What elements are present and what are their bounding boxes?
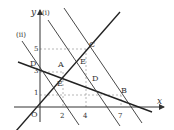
x-tick-4: 4: [83, 112, 88, 120]
point-d-right: D: [92, 74, 98, 83]
y-tick-5: 5: [34, 45, 38, 53]
line-ii-label: (ii): [16, 31, 26, 39]
point-c: C: [89, 40, 95, 49]
y-tick-1: 1: [34, 89, 38, 97]
line-i-label: (i): [42, 9, 50, 17]
point-d-left: D: [30, 59, 36, 68]
y-tick-3: 3: [34, 67, 38, 75]
point-b: B: [121, 86, 127, 95]
point-a: A: [57, 60, 64, 69]
point-e-lower: E: [57, 79, 63, 88]
origin-label: O: [31, 110, 38, 119]
x-tick-2: 2: [60, 112, 64, 120]
coordinate-diagram: x y O 2 4 7 1 3 5 (i) (ii) A B C D D E E: [0, 0, 174, 130]
x-tick-7: 7: [118, 112, 122, 120]
line-iii: [64, 8, 142, 123]
line-i: [48, 20, 120, 126]
y-axis-label: y: [30, 7, 37, 17]
point-e-upper: E: [80, 57, 86, 66]
x-axis-label: x: [157, 96, 162, 106]
